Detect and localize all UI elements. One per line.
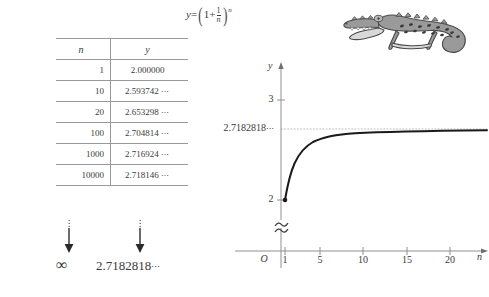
x-tick-label-1: 1 — [279, 254, 291, 265]
n-column-vertical-dots: ... — [62, 216, 76, 225]
cell-y-value: 2.653298 — [125, 107, 159, 117]
y-tick-label-2: 2 — [265, 193, 277, 204]
croc-nostril — [346, 23, 348, 25]
table-header-y: y — [111, 39, 189, 60]
cell-y-ellipsis: ⋯ — [161, 129, 170, 138]
table-header-n: n — [56, 39, 111, 60]
cell-y-ellipsis: ⋯ — [161, 87, 170, 96]
formula-exponent: n — [228, 6, 232, 14]
cell-y-value: 2.593742 — [125, 86, 159, 96]
cell-y-value: 2.716924 — [125, 149, 159, 159]
y-axis-label: y — [268, 60, 272, 71]
cell-y-value: 2.718146 — [125, 170, 159, 180]
values-table: n y 1 2.000000 10 2.593742 ⋯ 20 2.653298… — [56, 38, 188, 186]
cell-y-ellipsis: ⋯ — [161, 108, 170, 117]
table-row: 100 2.704814 ⋯ — [56, 123, 188, 144]
x-tick-label-15: 15 — [399, 254, 415, 265]
asymptote-ellipsis: ⋯ — [266, 124, 275, 133]
table-row: 10 2.593742 ⋯ — [56, 81, 188, 102]
axis-break-squiggle — [275, 223, 288, 232]
cell-y: 2.718146 ⋯ — [111, 165, 189, 186]
n-limit-arrow — [61, 228, 77, 254]
n-limit-value: ∞ — [56, 256, 67, 274]
x-tick-label-5: 5 — [314, 254, 326, 265]
chart-area: y n O 3 2 2.7182818⋯ 1 5 10 15 20 — [205, 58, 489, 283]
croc-eye — [374, 15, 382, 21]
cell-y-ellipsis: ⋯ — [161, 150, 170, 159]
y-limit-value: 2.7182818⋯ — [96, 258, 161, 274]
y-tick-label-3: 3 — [265, 93, 277, 104]
x-tick-label-20: 20 — [442, 254, 458, 265]
cell-y-ellipsis: ⋯ — [161, 171, 170, 180]
table-header-row: n y — [56, 39, 188, 60]
asymptote-label: 2.7182818⋯ — [201, 122, 275, 133]
cell-y: 2.653298 ⋯ — [111, 102, 189, 123]
cell-y: 2.000000 — [111, 60, 189, 81]
formula-expression: y=(1+1n)n — [186, 6, 232, 24]
formula-denominator: n — [217, 15, 221, 24]
x-axis-arrowhead — [481, 249, 488, 254]
cell-y-value: 2.704814 — [125, 128, 159, 138]
cell-n: 20 — [56, 102, 111, 123]
origin-label: O — [257, 253, 271, 264]
formula-equals: = — [191, 8, 197, 20]
formula-close-paren: ) — [223, 10, 227, 20]
cell-n: 100 — [56, 123, 111, 144]
cell-n: 1 — [56, 60, 111, 81]
formula-fraction: 1n — [217, 7, 221, 25]
cell-n: 10000 — [56, 165, 111, 186]
x-axis-label: n — [477, 251, 482, 262]
y-limit-number: 2.7182818 — [96, 258, 151, 273]
table-row: 1 2.000000 — [56, 60, 188, 81]
table-row: 1000 2.716924 ⋯ — [56, 144, 188, 165]
y-limit-arrow — [132, 228, 148, 254]
formula-numerator: 1 — [217, 7, 221, 15]
croc-upper-jaw — [344, 19, 379, 28]
formula-plus: + — [209, 8, 215, 20]
cell-n: 1000 — [56, 144, 111, 165]
croc-belly — [392, 43, 432, 49]
cell-y: 2.704814 ⋯ — [111, 123, 189, 144]
cell-y: 2.716924 ⋯ — [111, 144, 189, 165]
cell-y: 2.593742 ⋯ — [111, 81, 189, 102]
table-row: 20 2.653298 ⋯ — [56, 102, 188, 123]
y-axis-arrowhead — [278, 62, 283, 69]
crocodile-illustration — [334, 2, 486, 64]
croc-lower-jaw — [350, 28, 384, 40]
asymptote-value: 2.7182818 — [224, 122, 267, 133]
curve-path — [285, 130, 487, 200]
cell-y-value: 2.000000 — [131, 65, 165, 75]
table-row: 10000 2.718146 ⋯ — [56, 165, 188, 186]
y-column-vertical-dots: ... — [133, 216, 147, 225]
cell-n: 10 — [56, 81, 111, 102]
figure-canvas: y=(1+1n)n n y 1 2.000000 10 2.593742 ⋯ — [0, 0, 489, 297]
formula-open-paren: ( — [198, 10, 202, 20]
values-table-wrapper: n y 1 2.000000 10 2.593742 ⋯ 20 2.653298… — [56, 38, 188, 186]
x-tick-label-10: 10 — [355, 254, 371, 265]
y-limit-ellipsis: ⋯ — [151, 262, 161, 272]
curve-start-point — [283, 198, 288, 203]
